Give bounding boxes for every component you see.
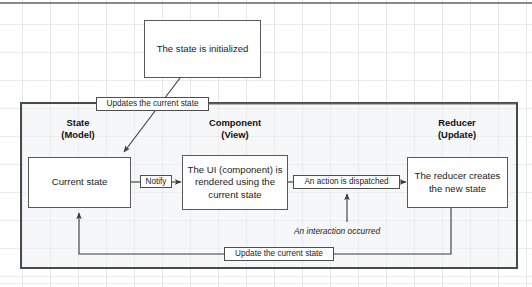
edge-label-updates-the-current-state: Updates the current state xyxy=(96,97,209,111)
node-state-initialized: The state is initialized xyxy=(144,20,261,78)
connector-layer xyxy=(0,0,532,287)
column-header-state-line1: State xyxy=(28,117,128,129)
edge-label-update-the-current-state: Update the current state xyxy=(224,247,334,261)
edge-init-to-current-state xyxy=(124,78,180,152)
column-header-state: State (Model) xyxy=(28,117,128,140)
edge-label-notify: Notify xyxy=(140,175,172,188)
node-reducer-creates-new-state: The reducer creates the new state xyxy=(407,157,508,208)
column-header-state-line2: (Model) xyxy=(28,129,128,141)
node-current-state: Current state xyxy=(28,157,131,208)
column-header-reducer-line1: Reducer xyxy=(405,117,509,129)
diagram-canvas: State (Model) Component (View) Reducer (… xyxy=(0,0,532,287)
edge-label-an-action-is-dispatched: An action is dispatched xyxy=(293,175,400,189)
column-header-component: Component (View) xyxy=(182,117,288,140)
column-header-component-line2: (View) xyxy=(182,129,288,141)
annotation-interaction-occurred: An interaction occurred xyxy=(294,226,380,236)
column-header-reducer-line2: (Update) xyxy=(405,129,509,141)
node-ui-rendered: The UI (component) is rendered using the… xyxy=(182,155,288,210)
column-header-reducer: Reducer (Update) xyxy=(405,117,509,140)
column-header-component-line1: Component xyxy=(182,117,288,129)
